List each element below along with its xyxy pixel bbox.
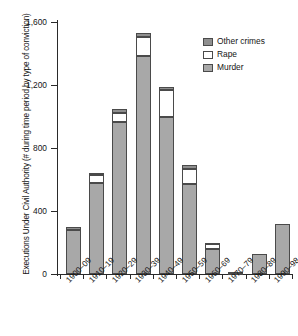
bar-segment-1940–49-murder (159, 117, 174, 274)
x-tick-1990–98 (269, 274, 270, 279)
legend-swatch-icon (203, 38, 213, 46)
bar-segment-1920–29-other-crimes (112, 109, 127, 113)
y-tick-0 (51, 274, 57, 275)
legend-item-murder[interactable]: Murder (203, 62, 265, 73)
bar-segment-1910–19-rape (89, 175, 104, 184)
bar-segment-1960–69-rape (205, 244, 220, 249)
bar-segment-1930–39-murder (136, 56, 151, 274)
y-axis-line (57, 20, 58, 276)
bar-segment-1960–69-other-crimes (205, 243, 220, 245)
x-tick-1980–89 (246, 274, 247, 279)
bar-segment-1920–29-murder (112, 122, 127, 274)
bar-1930–39 (136, 0, 151, 274)
y-tick-label-1600: 1,600 (26, 18, 47, 26)
bar-segment-1900–09-other-crimes (66, 227, 81, 230)
legend-swatch-icon (203, 51, 213, 59)
bar-segment-1940–49-other-crimes (159, 87, 174, 90)
y-tick-label-800: 800 (33, 144, 47, 152)
bar-1990–98 (275, 0, 290, 274)
bar-1910–19 (89, 0, 104, 274)
bar-segment-1950–59-rape (182, 169, 197, 184)
y-axis-title: Executions Under Civil Authority (# duri… (23, 9, 31, 279)
legend-swatch-icon (203, 64, 213, 72)
y-tick-800 (51, 148, 57, 149)
bar-segment-1930–39-other-crimes (136, 33, 151, 37)
bar-segment-1940–49-rape (159, 90, 174, 118)
executions-stacked-bar-chart: Executions Under Civil Authority (# duri… (0, 0, 298, 336)
legend-label: Other crimes (217, 37, 265, 45)
x-tick-1930–39 (130, 274, 131, 279)
bar-segment-1930–39-rape (136, 37, 151, 56)
bar-segment-1910–19-other-crimes (89, 173, 104, 175)
y-tick-label-0: 0 (42, 270, 47, 278)
bar-segment-1950–59-other-crimes (182, 165, 197, 169)
x-tick-1940–49 (153, 274, 154, 279)
y-tick-1600 (51, 22, 57, 23)
bar-1950–59 (182, 0, 197, 274)
bar-1920–29 (112, 0, 127, 274)
legend-label: Murder (217, 63, 244, 71)
legend-item-rape[interactable]: Rape (203, 49, 265, 60)
x-tick-1960–69 (199, 274, 200, 279)
legend-item-other-crimes[interactable]: Other crimes (203, 36, 265, 47)
x-tick-1910–19 (83, 274, 84, 279)
x-tick-1900–09 (60, 274, 61, 279)
bar-1900–09 (66, 0, 81, 274)
chart-legend: Other crimesRapeMurder (203, 36, 265, 75)
y-tick-label-400: 400 (33, 207, 47, 215)
legend-label: Rape (217, 50, 237, 58)
bar-segment-1920–29-rape (112, 113, 127, 122)
x-tick-1920–29 (106, 274, 107, 279)
y-tick-label-1200: 1,200 (26, 81, 47, 89)
x-tick-1950–59 (176, 274, 177, 279)
y-tick-1200 (51, 85, 57, 86)
bar-1940–49 (159, 0, 174, 274)
x-tick-end (292, 274, 293, 279)
x-tick-1970–79 (222, 274, 223, 279)
y-tick-400 (51, 211, 57, 212)
